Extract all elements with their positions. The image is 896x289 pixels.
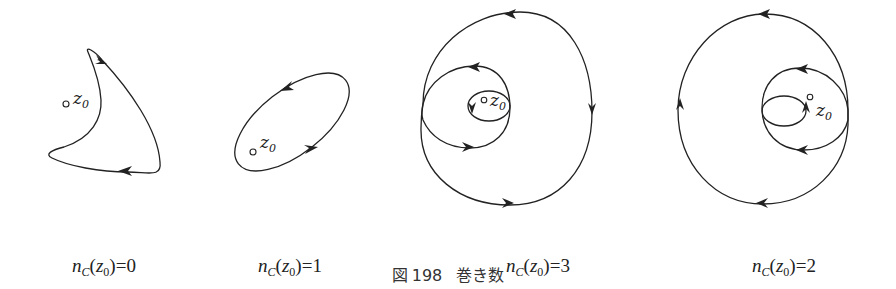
z0-label: z0	[72, 88, 89, 111]
caption-label: 図	[392, 266, 408, 285]
winding-number-diagram: z0 z0 z0 z0	[0, 0, 896, 250]
winding-eq-0: nC(z0)=0	[72, 255, 136, 280]
z0-label: z0	[489, 90, 506, 113]
caption-title: 巻き数	[456, 266, 504, 285]
figure-caption: 図198巻き数	[392, 262, 505, 286]
winding-eq-3: nC(z0)=2	[752, 255, 816, 280]
curve-winding-3: z0	[421, 9, 596, 208]
winding-eq-1: nC(z0)=1	[258, 255, 322, 280]
z0-label: z0	[815, 100, 832, 123]
caption-number: 198	[412, 266, 443, 285]
curve-winding-2: z0	[676, 9, 848, 208]
z0-label: z0	[259, 132, 276, 155]
curve-winding-0: z0	[49, 49, 160, 176]
winding-eq-2: nC(z0)=3	[506, 255, 570, 280]
curve-winding-1: z0	[219, 55, 366, 189]
